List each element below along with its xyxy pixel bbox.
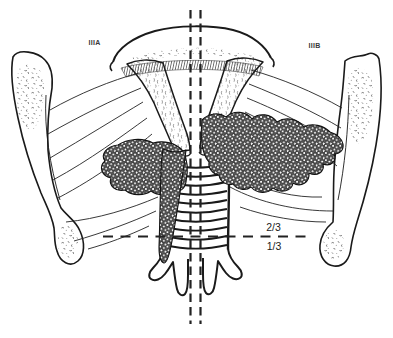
staging-diagram: IIIA IIIB 2/3 1/3 [0,0,393,338]
stage-label-iiib: IIIB [308,42,320,49]
anatomy-illustration: IIIA IIIB 2/3 1/3 [0,0,393,338]
tumor-masses [101,112,343,263]
stage-label-iiia: IIIA [88,39,100,46]
lower-one-third-label: 1/3 [267,240,282,252]
introitus-right-fork [203,249,242,294]
left-cornu-curl [110,62,113,71]
right-cornu-curl [271,58,274,67]
upper-two-thirds-label: 2/3 [266,221,281,233]
tumor-mass-right-pelvic-wall [201,112,343,192]
